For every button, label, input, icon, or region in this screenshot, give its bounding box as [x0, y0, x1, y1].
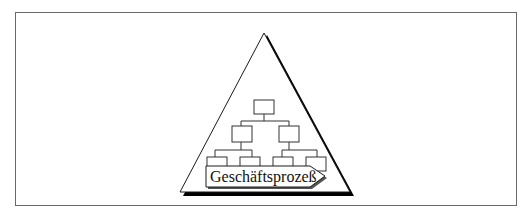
org-box-top: [254, 100, 274, 114]
pyramid-diagram: Geschäftsprozeß: [0, 0, 530, 217]
process-label: Geschäftsprozeß: [210, 168, 317, 186]
org-box-mid-right: [279, 126, 299, 142]
org-box-mid-left: [232, 126, 252, 142]
